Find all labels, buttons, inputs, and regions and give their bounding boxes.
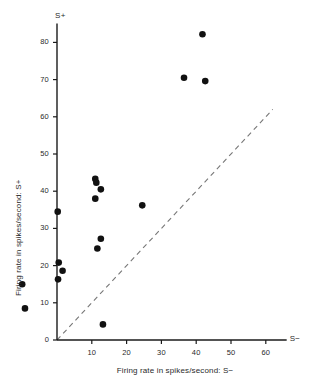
data-point: [139, 202, 146, 209]
y-tick-label: 80: [25, 37, 49, 46]
data-point: [93, 179, 100, 186]
data-point: [55, 276, 62, 283]
data-point: [55, 259, 62, 266]
x-axis-end-label: S−: [290, 334, 301, 343]
y-axis-title: Firing rate in spikes/second: S+: [14, 179, 23, 296]
data-point: [199, 31, 206, 38]
data-point: [98, 236, 105, 243]
x-tick-label: 40: [184, 348, 208, 357]
data-point: [202, 78, 209, 85]
x-tick-label: 50: [219, 348, 243, 357]
y-axis-end-label: S+: [55, 11, 66, 20]
y-tick-label: 50: [25, 149, 49, 158]
x-tick-label: 60: [254, 348, 278, 357]
data-point: [100, 321, 107, 328]
axis-ticks: [53, 42, 266, 344]
x-tick-label: 30: [149, 348, 173, 357]
x-axis-title: Firing rate in spikes/second: S−: [60, 366, 290, 375]
scatter-plot-figure: 01020304050607080102030405060 S+ S− Firi…: [0, 0, 320, 387]
data-point: [94, 245, 101, 252]
y-tick-label: 70: [25, 75, 49, 84]
x-tick-label: 10: [80, 348, 104, 357]
data-point: [59, 268, 66, 275]
identity-line: [57, 109, 273, 340]
data-point: [92, 195, 99, 202]
y-tick-label: 60: [25, 112, 49, 121]
x-tick-label: 20: [115, 348, 139, 357]
axis-lines: [57, 24, 287, 340]
y-tick-label: 20: [25, 261, 49, 270]
data-point: [98, 186, 105, 193]
data-point: [181, 74, 188, 81]
data-point: [54, 208, 61, 215]
y-tick-label: 40: [25, 186, 49, 195]
y-tick-label: 10: [25, 298, 49, 307]
identity-reference-line: [57, 109, 273, 340]
y-tick-label: 0: [25, 335, 49, 344]
y-tick-label: 30: [25, 223, 49, 232]
